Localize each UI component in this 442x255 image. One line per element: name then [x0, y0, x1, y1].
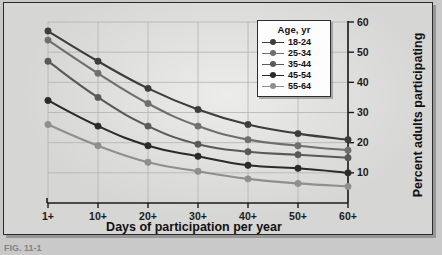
x-tick-label: 60+ — [339, 210, 357, 222]
y-tick-labels: 102030405060 — [357, 16, 369, 179]
data-point — [95, 142, 101, 148]
data-point — [195, 168, 201, 174]
x-tick-label: 50+ — [289, 210, 307, 222]
legend-swatch-icon — [262, 38, 284, 47]
data-point — [245, 149, 251, 155]
legend-swatch-icon — [262, 60, 284, 69]
legend-box: Age, yr 18-2425-3435-4445-5455-64 — [257, 20, 331, 97]
x-tick-label: 1+ — [42, 210, 54, 222]
y-axis-title: Percent adults participating — [411, 33, 425, 198]
data-point — [295, 165, 301, 171]
legend-marker-icon — [270, 50, 276, 56]
data-point — [245, 136, 251, 142]
data-point — [295, 142, 301, 148]
y-tick-label: 40 — [357, 76, 369, 88]
legend-item-18-24: 18-24 — [262, 37, 326, 47]
data-point — [195, 141, 201, 147]
legend-item-55-64: 55-64 — [262, 81, 326, 91]
legend-item-label: 18-24 — [288, 38, 311, 47]
data-point — [345, 136, 351, 142]
x-tick-label: 10+ — [89, 210, 107, 222]
data-point — [45, 121, 51, 127]
data-point — [95, 58, 101, 64]
data-point — [345, 155, 351, 161]
data-point — [45, 37, 51, 43]
data-point — [145, 100, 151, 106]
line-chart-svg: 102030405060 1+10+20+30+40+50+60+ Days o… — [4, 3, 433, 235]
legend-marker-icon — [270, 39, 276, 45]
data-point — [345, 147, 351, 153]
data-point — [45, 97, 51, 103]
legend-title: Age, yr — [262, 24, 326, 35]
legend-marker-icon — [270, 72, 276, 78]
data-point — [245, 121, 251, 127]
chart-panel: 102030405060 1+10+20+30+40+50+60+ Days o… — [3, 2, 433, 235]
legend-item-45-54: 45-54 — [262, 70, 326, 80]
y-tick-label: 50 — [357, 46, 369, 58]
data-point — [95, 70, 101, 76]
data-point — [145, 123, 151, 129]
data-point — [95, 123, 101, 129]
figure-caption: FIG. 11-1 — [4, 243, 154, 255]
data-point — [145, 142, 151, 148]
data-point — [345, 183, 351, 189]
legend-item-label: 55-64 — [288, 82, 311, 91]
legend-marker-icon — [270, 83, 276, 89]
data-point — [245, 162, 251, 168]
data-point — [295, 180, 301, 186]
legend-item-label: 45-54 — [288, 71, 311, 80]
data-point — [245, 176, 251, 182]
y-tick-label: 60 — [357, 16, 369, 28]
data-point — [295, 130, 301, 136]
legend-entries: 18-2425-3435-4445-5455-64 — [262, 37, 326, 91]
legend-item-35-44: 35-44 — [262, 59, 326, 69]
legend-marker-icon — [270, 61, 276, 67]
data-point — [45, 58, 51, 64]
data-point — [145, 85, 151, 91]
legend-item-label: 25-34 — [288, 49, 311, 58]
data-point — [345, 170, 351, 176]
data-point — [45, 28, 51, 34]
legend-item-25-34: 25-34 — [262, 48, 326, 58]
data-point — [295, 152, 301, 158]
data-point — [145, 159, 151, 165]
legend-swatch-icon — [262, 71, 284, 80]
figure-caption-text: FIG. 11-1 — [4, 243, 154, 254]
data-point — [195, 123, 201, 129]
legend-swatch-icon — [262, 49, 284, 58]
data-point — [95, 94, 101, 100]
data-point — [195, 153, 201, 159]
figure-container: 102030405060 1+10+20+30+40+50+60+ Days o… — [0, 0, 442, 255]
legend-swatch-icon — [262, 82, 284, 91]
data-point — [195, 106, 201, 112]
y-tick-label: 30 — [357, 106, 369, 118]
y-tick-label: 10 — [357, 166, 369, 178]
y-tick-label: 20 — [357, 136, 369, 148]
legend-item-label: 35-44 — [288, 60, 311, 69]
x-axis-title: Days of participation per year — [106, 220, 282, 234]
plot-area: 102030405060 1+10+20+30+40+50+60+ Days o… — [4, 3, 433, 235]
